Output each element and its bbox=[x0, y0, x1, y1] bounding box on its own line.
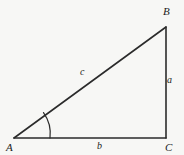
figure-background bbox=[0, 0, 184, 155]
vertex-label-b: B bbox=[163, 6, 170, 17]
side-label-a: a bbox=[167, 75, 172, 85]
vertex-label-a: A bbox=[6, 142, 13, 153]
triangle-drawing bbox=[0, 0, 184, 155]
triangle-figure: A B C a b c bbox=[0, 0, 184, 155]
vertex-label-c: C bbox=[165, 142, 172, 153]
side-label-b: b bbox=[97, 141, 102, 151]
side-label-c: c bbox=[80, 67, 84, 77]
